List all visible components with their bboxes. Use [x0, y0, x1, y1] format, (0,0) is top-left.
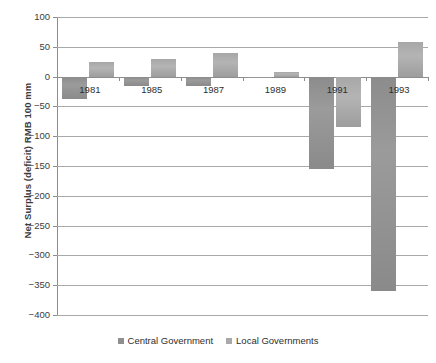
bar-1981-local	[89, 62, 114, 76]
y-tick-mark	[53, 226, 57, 227]
x-axis-label-1987: 1987	[203, 85, 224, 95]
x-tick-mark	[57, 77, 58, 81]
chart-legend: Central GovernmentLocal Governments	[0, 336, 436, 346]
y-tick-label: 50	[39, 42, 50, 52]
legend-item-local-governments[interactable]: Local Governments	[226, 336, 318, 346]
y-tick-label: −150	[29, 161, 50, 171]
legend-item-central-government[interactable]: Central Government	[118, 336, 214, 346]
bar-1993-local	[398, 42, 423, 77]
bar-1989-central	[247, 77, 272, 78]
y-tick-label: −200	[29, 191, 50, 201]
bar-1993-central	[371, 77, 396, 292]
bar-1985-local	[151, 59, 176, 77]
y-tick-label: −100	[29, 131, 50, 141]
y-tick-label: 100	[34, 12, 50, 22]
bar-1989-local	[274, 72, 299, 76]
gridline	[57, 17, 428, 18]
legend-label: Central Government	[128, 336, 214, 346]
x-axis-label-1991: 1991	[327, 85, 348, 95]
x-axis-label-1993: 1993	[389, 85, 410, 95]
y-tick-label: −350	[29, 280, 50, 290]
legend-label: Local Governments	[236, 336, 318, 346]
y-tick-mark	[53, 17, 57, 18]
legend-swatch-icon	[226, 338, 232, 344]
y-tick-mark	[53, 136, 57, 137]
x-axis-label-1989: 1989	[265, 85, 286, 95]
bar-chart: Net Surplus (deficit) RMB 100 mm 100500−…	[0, 0, 436, 363]
x-tick-mark	[119, 77, 120, 81]
gridline	[57, 315, 428, 316]
gridline	[57, 47, 428, 48]
x-tick-mark	[304, 77, 305, 81]
y-tick-mark	[53, 255, 57, 256]
y-tick-label: −50	[34, 102, 50, 112]
y-tick-mark	[53, 315, 57, 316]
y-tick-label: −400	[29, 310, 50, 320]
legend-swatch-icon	[118, 338, 124, 344]
plot-area: 100500−50−100−150−200−250−300−350−400198…	[57, 17, 428, 315]
y-tick-mark	[53, 196, 57, 197]
y-tick-label: −300	[29, 251, 50, 261]
x-tick-mark	[428, 77, 429, 81]
x-axis-label-1981: 1981	[79, 85, 100, 95]
y-tick-mark	[53, 47, 57, 48]
x-tick-mark	[181, 77, 182, 81]
y-tick-label: 0	[45, 72, 50, 82]
y-tick-mark	[53, 166, 57, 167]
y-tick-mark	[53, 106, 57, 107]
y-tick-label: −250	[29, 221, 50, 231]
x-tick-mark	[243, 77, 244, 81]
x-tick-mark	[366, 77, 367, 81]
x-axis-label-1985: 1985	[141, 85, 162, 95]
bar-1987-local	[213, 53, 238, 77]
y-tick-mark	[53, 285, 57, 286]
